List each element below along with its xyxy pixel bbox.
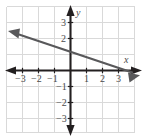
y-tick-label-neg3: −3 bbox=[56, 114, 67, 124]
y-tick-label-neg1: −1 bbox=[56, 82, 67, 92]
y-tick-label-3: 3 bbox=[61, 18, 66, 28]
y-axis-name-label: y bbox=[76, 8, 80, 18]
x-tick-label-3: 3 bbox=[116, 74, 121, 84]
x-tick-label-neg3: −3 bbox=[15, 74, 26, 84]
x-tick-label-1: 1 bbox=[84, 74, 89, 84]
y-tick-label-2: 2 bbox=[61, 34, 66, 44]
graph-canvas bbox=[0, 0, 144, 139]
y-axis-bottom-arrowhead bbox=[66, 125, 74, 136]
x-tick-label-neg2: −2 bbox=[31, 74, 42, 84]
coordinate-plane-figure: −3 −2 −1 1 2 3 3 2 −1 −2 −3 y x bbox=[0, 0, 144, 139]
x-tick-label-2: 2 bbox=[100, 74, 105, 84]
x-axis-name-label: x bbox=[124, 55, 128, 65]
line-left-arrowhead bbox=[8, 29, 20, 39]
y-tick-label-neg2: −2 bbox=[56, 98, 67, 108]
